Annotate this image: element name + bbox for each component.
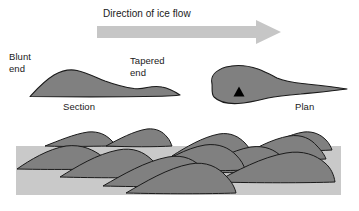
drumlin-field-shape-3 <box>106 129 172 147</box>
drumlin-plan-outline <box>212 66 347 104</box>
section-view-label: Section <box>63 101 95 113</box>
ice-flow-arrow-body <box>97 20 281 44</box>
drumlin-field <box>16 129 341 195</box>
drumlin-field-shape-2 <box>45 132 116 147</box>
blunt-end-label: Blunt end <box>9 51 31 74</box>
plan-view-label: Plan <box>295 101 314 113</box>
drumlin-morphology-figure: Direction of ice flow Blunt end Tapered … <box>0 0 359 211</box>
ice-flow-arrow <box>97 20 281 44</box>
drumlin-plan-shape <box>212 66 347 104</box>
figure-title: Direction of ice flow <box>103 8 191 20</box>
tapered-end-label: Tapered end <box>130 55 165 78</box>
